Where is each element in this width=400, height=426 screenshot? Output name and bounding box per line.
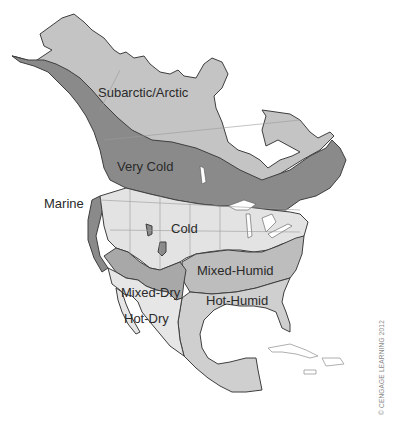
label-marine: Marine bbox=[44, 197, 84, 210]
label-subarctic-arctic: Subarctic/Arctic bbox=[98, 86, 188, 99]
label-mixed-dry: Mixed-Dry bbox=[121, 286, 180, 299]
label-cold: Cold bbox=[171, 222, 198, 235]
label-mixed-humid: Mixed-Humid bbox=[197, 264, 274, 277]
climate-zone-map bbox=[0, 0, 400, 426]
copyright-credit: © CENGAGE LEARNING 2012 bbox=[378, 320, 385, 415]
caribbean-islands bbox=[268, 344, 344, 374]
label-hot-dry: Hot-Dry bbox=[124, 312, 169, 325]
label-very-cold: Very Cold bbox=[117, 160, 173, 173]
region-rockies-patch-2 bbox=[158, 242, 166, 256]
label-hot-humid: Hot-Humid bbox=[206, 294, 268, 307]
